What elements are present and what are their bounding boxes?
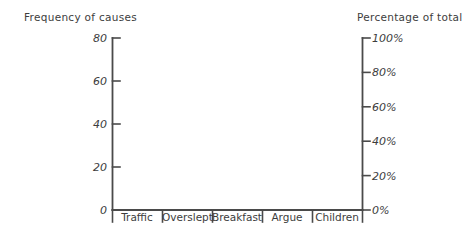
category-label-breakfast: Breakfast	[212, 211, 262, 223]
left-tick-label-40: 40	[93, 118, 107, 131]
right-tick-label-20: 20%	[372, 170, 396, 183]
left-tick-label-0: 0	[100, 204, 107, 217]
left-tick-label-80: 80	[93, 32, 107, 45]
category-label-children: Children	[312, 211, 362, 223]
right-tick-label-0: 0%	[372, 204, 389, 217]
category-label-traffic: Traffic	[112, 211, 162, 223]
right-tick-label-60: 60%	[372, 101, 396, 114]
category-label-overslept: Overslept	[162, 211, 212, 223]
right-tick-label-100: 100%	[372, 32, 403, 45]
left-tick-label-60: 60	[93, 75, 107, 88]
right-tick-label-80: 80%	[372, 66, 396, 79]
pareto-chart: Frequency of causes Percentage of total	[0, 0, 473, 242]
left-tick-label-20: 20	[93, 161, 107, 174]
right-tick-label-40: 40%	[372, 135, 396, 148]
category-label-argue: Argue	[262, 211, 312, 223]
